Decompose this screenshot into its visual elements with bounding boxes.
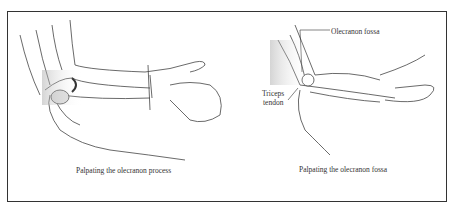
caption-olecranon-process: Palpating the olecranon process — [76, 166, 171, 175]
elbow-palpation-illustration — [0, 0, 455, 207]
olecranon-fossa-label: Olecranon fossa — [331, 27, 380, 36]
triceps-label-line2: tendon — [263, 98, 283, 107]
caption-olecranon-fossa: Palpating the olecranon fossa — [299, 165, 387, 174]
triceps-label-line1: Triceps — [262, 89, 284, 98]
